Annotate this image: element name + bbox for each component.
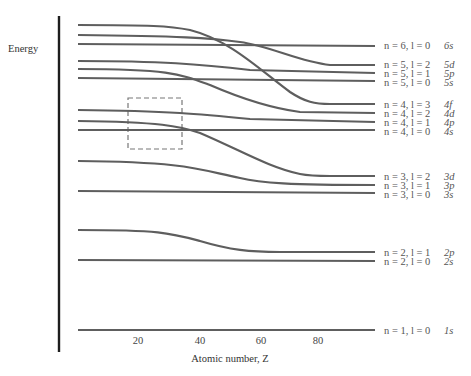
- level-2s: [78, 260, 375, 261]
- x-axis-label: Atomic number, Z: [191, 353, 268, 364]
- label-1s-orbital: 1s: [444, 325, 453, 336]
- level-4d: [78, 69, 375, 113]
- x-tick-20: 20: [133, 335, 144, 346]
- label-3s-orbital: 3s: [443, 189, 453, 200]
- energy-level-diagram: Energy n = 6, l = 0 6s n = 5, l = 2 5d n…: [0, 0, 471, 376]
- x-tick-40: 40: [195, 335, 206, 346]
- label-2s-quantum: n = 2, l = 0: [384, 256, 430, 267]
- level-labels: n = 6, l = 0 6s n = 5, l = 2 5d n = 5, l…: [384, 40, 455, 336]
- label-6s-orbital: 6s: [444, 40, 453, 51]
- label-5s-quantum: n = 5, l = 0: [384, 77, 430, 88]
- label-1s-quantum: n = 1, l = 0: [384, 325, 430, 336]
- label-2s-orbital: 2s: [444, 256, 453, 267]
- label-4s-quantum: n = 4, l = 0: [384, 126, 430, 137]
- level-3p: [78, 161, 375, 185]
- energy-axis-label: Energy: [8, 43, 39, 54]
- level-2p: [78, 230, 375, 252]
- label-6s-quantum: n = 6, l = 0: [384, 40, 430, 51]
- x-tick-60: 60: [256, 335, 267, 346]
- label-3s-quantum: n = 3, l = 0: [384, 189, 430, 200]
- x-tick-80: 80: [313, 335, 324, 346]
- level-5s: [78, 78, 375, 81]
- level-5p: [78, 61, 375, 73]
- label-5s-orbital: 5s: [444, 77, 453, 88]
- level-3s: [78, 191, 375, 193]
- label-4s-orbital: 4s: [444, 126, 453, 137]
